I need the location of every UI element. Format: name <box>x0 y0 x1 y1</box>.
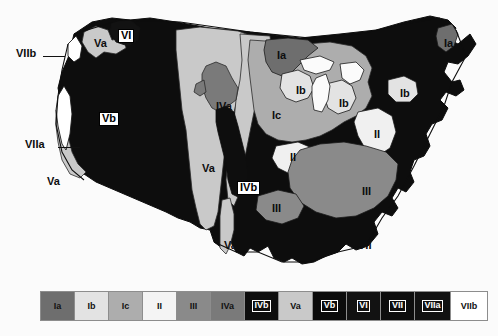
label-viib: VIIb <box>16 48 36 59</box>
legend-swatch-IVb[interactable]: IVb <box>245 292 279 320</box>
legend-swatch-Ib[interactable]: Ib <box>75 292 109 320</box>
label-viia: VIIa <box>25 139 45 150</box>
legend-label-VIIb: VIIb <box>461 302 478 311</box>
label-vb: Vb <box>99 112 119 126</box>
leader-line-VIIb <box>43 56 65 57</box>
legend-swatch-Vb[interactable]: Vb <box>313 292 347 320</box>
label-ib-n: Ib <box>296 85 306 96</box>
label-va-sw: Va <box>47 176 60 187</box>
legend-swatch-II[interactable]: II <box>143 292 177 320</box>
map-page: VIIbVaVIIaIbIbIaIbVbIVaIcIIVIIaVaIIVaIVb… <box>0 0 498 336</box>
map-graphic <box>0 0 498 278</box>
legend-swatch-VIIb[interactable]: VIIb <box>451 292 487 320</box>
legend-swatch-VI[interactable]: VI <box>347 292 381 320</box>
legend-swatch-VIIa[interactable]: VIIa <box>415 292 451 320</box>
label-ib-ne: Ib <box>400 88 410 99</box>
leader-line-VIIa <box>58 147 80 148</box>
legend-label-Vb: Vb <box>321 300 338 312</box>
label-vi: VI <box>118 29 134 43</box>
legend-label-Va: Va <box>290 302 301 311</box>
label-iii-e: III <box>362 186 371 197</box>
label-va-nw: Va <box>94 38 107 49</box>
legend-label-III: III <box>190 302 198 311</box>
legend-swatch-III[interactable]: III <box>177 292 211 320</box>
legend-label-Ic: Ic <box>122 302 130 311</box>
label-ic: Ic <box>272 110 281 121</box>
legend-label-VIIa: VIIa <box>422 300 443 312</box>
legend-label-II: II <box>157 302 162 311</box>
label-ia-ne: Ia <box>444 38 453 49</box>
legend-swatch-IVa[interactable]: IVa <box>211 292 245 320</box>
label-vii: VII <box>358 240 371 251</box>
label-ii-s: II <box>290 152 296 163</box>
legend-swatch-Ic[interactable]: Ic <box>109 292 143 320</box>
label-ia-n: Ia <box>277 50 286 61</box>
legend-swatch-VII[interactable]: VII <box>381 292 415 320</box>
label-va-tx: Va <box>224 240 237 251</box>
us-ecoregion-map: VIIbVaVIIaIbIbIaIbVbIVaIcIIVIIaVaIIVaIVb… <box>0 0 498 278</box>
legend-swatch-Ia[interactable]: Ia <box>41 292 75 320</box>
label-va-w: Va <box>202 163 215 174</box>
label-ivb: IVb <box>237 181 260 195</box>
label-iii-s: III <box>272 203 281 214</box>
zone-legend[interactable]: IaIbIcIIIIIIVaIVbVaVbVIVIIVIIaVIIb <box>40 291 488 321</box>
legend-label-VI: VI <box>357 300 371 312</box>
legend-label-Ib: Ib <box>88 302 96 311</box>
legend-swatch-Va[interactable]: Va <box>279 292 313 320</box>
legend-label-IVb: IVb <box>252 300 271 312</box>
label-ib-lk: Ib <box>339 98 349 109</box>
legend-label-IVa: IVa <box>221 302 234 311</box>
legend-label-Ia: Ia <box>54 302 62 311</box>
label-iva: IVa <box>216 101 232 112</box>
legend-label-VII: VII <box>389 300 405 312</box>
label-ii-ne: II <box>374 129 380 140</box>
